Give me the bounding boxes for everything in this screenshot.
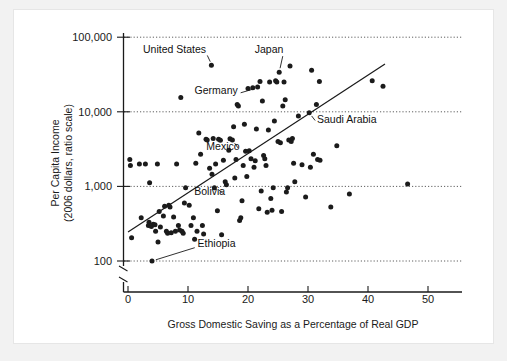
data-point — [153, 229, 158, 234]
data-point — [284, 190, 289, 195]
data-point — [183, 185, 188, 190]
data-point — [268, 196, 273, 201]
data-point — [288, 64, 293, 69]
axis-break-icon — [119, 266, 128, 282]
data-point — [272, 119, 277, 124]
data-point — [279, 209, 284, 214]
data-point — [274, 80, 279, 85]
data-point — [247, 148, 252, 153]
data-point — [266, 128, 271, 133]
data-point — [168, 204, 173, 209]
data-point — [328, 204, 333, 209]
data-point — [253, 158, 258, 163]
data-point — [290, 136, 295, 141]
data-point — [291, 161, 296, 166]
data-point — [195, 229, 200, 234]
data-point — [221, 158, 226, 163]
annotation-germany: Germany — [195, 84, 239, 96]
data-point — [314, 102, 319, 107]
data-point — [282, 80, 287, 85]
data-point — [234, 157, 239, 162]
y-tick-labels: 1001,00010,000100,000 — [72, 31, 112, 267]
y-tick-label-1000: 1,000 — [84, 180, 112, 192]
data-point — [256, 206, 261, 211]
data-point — [303, 195, 308, 200]
y-tick-label-10000: 10,000 — [78, 106, 112, 118]
data-point — [162, 204, 167, 209]
data-point — [260, 98, 265, 103]
data-point — [209, 63, 214, 68]
leader-line-ethiopia — [156, 248, 195, 260]
data-point — [311, 152, 316, 157]
data-point — [280, 103, 285, 108]
data-point — [147, 180, 152, 185]
data-point — [255, 85, 260, 90]
data-point — [178, 95, 183, 100]
data-point — [307, 110, 312, 115]
data-point — [137, 161, 142, 166]
data-point — [264, 163, 269, 168]
data-point — [192, 237, 197, 242]
data-point — [317, 79, 322, 84]
data-point — [242, 122, 247, 127]
data-point — [181, 231, 186, 236]
data-point — [283, 97, 288, 102]
data-point — [252, 165, 257, 170]
data-point — [300, 162, 305, 167]
gridlines — [124, 37, 462, 261]
scatter-chart: United StatesJapanGermanyMexicoSaudi Ara… — [0, 0, 507, 361]
x-tick-label-40: 40 — [362, 293, 374, 305]
y-axis-title-line2: (2006 dollars, ratio scale) — [62, 104, 74, 222]
data-point — [193, 161, 198, 166]
data-point — [238, 215, 243, 220]
annotation-saudi-arabia: Saudi Arabia — [317, 113, 377, 125]
data-point — [334, 143, 339, 148]
data-point — [198, 152, 203, 157]
y-axis-title-line1: Per Capita Income — [49, 119, 61, 206]
data-point — [139, 215, 144, 220]
data-points — [127, 63, 410, 264]
data-point — [150, 259, 155, 264]
x-tick-label-10: 10 — [182, 293, 194, 305]
data-point — [153, 222, 158, 227]
data-point — [296, 113, 301, 118]
data-point — [174, 161, 179, 166]
x-tick-label-20: 20 — [242, 293, 254, 305]
x-axis-title: Gross Domestic Saving as a Percentage of… — [168, 318, 419, 330]
data-point — [259, 188, 264, 193]
data-point — [200, 223, 205, 228]
annotation-united-states: United States — [143, 43, 206, 55]
data-point — [128, 163, 133, 168]
data-point — [176, 223, 181, 228]
data-point — [244, 174, 249, 179]
data-point — [285, 185, 290, 190]
axis-ticks — [117, 37, 428, 292]
data-point — [347, 192, 352, 197]
data-point — [196, 130, 201, 135]
leader-line-japan — [280, 56, 283, 68]
data-point — [236, 103, 241, 108]
data-point — [215, 208, 220, 213]
data-point — [201, 232, 206, 237]
y-tick-label-100: 100 — [94, 255, 112, 267]
leader-line-saudi-arabia — [312, 116, 316, 121]
data-point — [231, 124, 236, 129]
data-point — [187, 203, 192, 208]
data-point — [158, 225, 163, 230]
annotation-mexico: Mexico — [206, 140, 239, 152]
data-point — [241, 163, 246, 168]
data-point — [189, 223, 194, 228]
data-point — [213, 161, 218, 166]
data-point — [381, 84, 386, 89]
data-point — [161, 214, 166, 219]
data-point — [265, 210, 270, 215]
data-point — [271, 185, 276, 190]
data-point — [127, 157, 132, 162]
data-point — [267, 80, 272, 85]
data-point — [232, 175, 237, 180]
data-point — [207, 166, 212, 171]
data-point — [143, 161, 148, 166]
data-point — [405, 181, 410, 186]
annotation-ethiopia: Ethiopia — [198, 237, 236, 249]
annotation-japan: Japan — [255, 43, 284, 55]
